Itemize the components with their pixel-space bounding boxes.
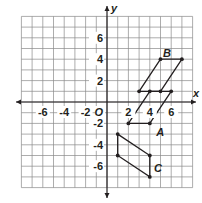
x-tick-label: -4 [59, 106, 70, 118]
x-tick-label: 4 [147, 106, 154, 118]
y-tick-label: 6 [97, 32, 103, 44]
x-tick-label: -6 [38, 106, 48, 118]
y-tick-label: -2 [93, 117, 103, 129]
vertex-point [148, 154, 152, 158]
vertex-point [116, 154, 120, 158]
origin-label: O [94, 106, 103, 118]
x-tick-label: -2 [81, 106, 91, 118]
y-axis-label: y [110, 2, 118, 14]
figure-label-B: B [163, 47, 171, 59]
x-tick-label: 2 [125, 106, 131, 118]
y-tick-label: -6 [93, 160, 103, 172]
x-axis-arrow-left-icon [16, 100, 21, 105]
vertex-point [116, 132, 120, 136]
x-tick-label: 6 [168, 106, 174, 118]
x-axis-arrow-right-icon [191, 100, 196, 105]
figure-label-A: A [155, 126, 164, 138]
y-tick-label: -4 [93, 139, 104, 151]
x-axis-label: x [192, 87, 200, 99]
coordinate-plane: -6-4-2246642-2-4-6OxyABC [0, 0, 202, 203]
vertex-point [159, 89, 163, 93]
figure-label-C: C [154, 162, 163, 174]
vertex-point [148, 122, 152, 126]
vertex-point [180, 57, 184, 61]
vertex-point [137, 89, 141, 93]
y-tick-label: 4 [97, 53, 104, 65]
y-tick-label: 2 [97, 75, 103, 87]
vertex-point [159, 57, 163, 61]
vertex-point [148, 175, 152, 179]
vertex-point [126, 122, 130, 126]
vertex-point [169, 89, 173, 93]
y-axis-arrow-up-icon [105, 6, 110, 11]
y-axis-arrow-down-icon [105, 193, 110, 198]
